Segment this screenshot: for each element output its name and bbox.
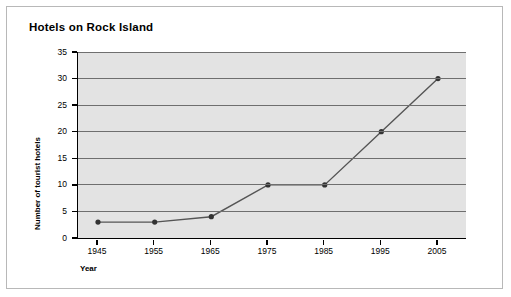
data-point-1955 [152,220,157,225]
gridline [78,184,466,185]
x-tick-mark [266,240,268,245]
y-tick-mark [72,131,77,133]
y-tick-label: 15 [45,153,67,163]
y-tick-mark [72,78,77,80]
data-point-1945 [95,220,100,225]
y-tick-label: 0 [45,233,67,243]
y-tick-mark [72,211,77,213]
x-tick-mark [323,240,325,245]
x-tick-mark [153,240,155,245]
y-tick-label: 5 [45,206,67,216]
x-tick-label: 1965 [193,246,227,256]
x-tick-mark [210,240,212,245]
x-tick-label: 1945 [80,246,114,256]
x-tick-label: 1985 [307,246,341,256]
y-tick-mark [72,184,77,186]
x-tick-label: 1995 [363,246,397,256]
x-tick-mark [380,240,382,245]
x-axis-label: Year [80,264,97,273]
series-line [98,79,438,223]
gridline [78,158,466,159]
y-tick-label: 20 [45,126,67,136]
x-tick-label: 2005 [420,246,454,256]
gridline [78,211,466,212]
y-tick-label: 25 [45,100,67,110]
chart-figure: Hotels on Rock Island Number of tourist … [6,6,503,289]
gridline [78,105,466,106]
gridline [78,78,466,79]
y-tick-mark [72,158,77,160]
y-tick-mark [72,51,77,53]
y-tick-label: 30 [45,73,67,83]
y-tick-label: 35 [45,47,67,57]
y-tick-mark [72,104,77,106]
plot-area [77,52,466,239]
x-tick-label: 1975 [250,246,284,256]
x-tick-mark [96,240,98,245]
gridline [78,131,466,132]
y-tick-mark [72,237,77,239]
data-point-1965 [209,214,214,219]
y-tick-label: 10 [45,179,67,189]
chart-title: Hotels on Rock Island [29,21,153,33]
gridline [78,52,466,53]
x-tick-label: 1955 [137,246,171,256]
x-tick-mark [436,240,438,245]
y-axis-label: Number of tourist hotels [33,137,42,230]
